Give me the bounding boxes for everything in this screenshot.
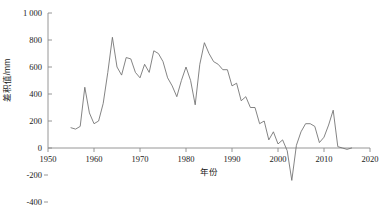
x-tick-label: 1960 bbox=[86, 154, 103, 164]
y-tick-label: 1 000 bbox=[23, 8, 42, 18]
x-axis: 19501960197019801990200020102020 bbox=[40, 148, 379, 164]
x-axis-title: 年份 bbox=[200, 167, 218, 177]
y-tick-label: -400 bbox=[26, 197, 42, 207]
data-series-group bbox=[71, 37, 352, 180]
y-tick-label: 600 bbox=[29, 62, 42, 72]
x-tick-label: 1950 bbox=[40, 154, 57, 164]
y-tick-label: 200 bbox=[29, 116, 42, 126]
x-tick-label: 1970 bbox=[132, 154, 149, 164]
cumulative-anomaly-line-chart: -400-20002004006008001 000 1950196019701… bbox=[0, 0, 385, 212]
y-axis-title: 差积值/mm bbox=[2, 59, 12, 103]
y-tick-label: 800 bbox=[29, 35, 42, 45]
y-axis: -400-20002004006008001 000 bbox=[23, 8, 52, 207]
y-tick-label: 0 bbox=[38, 143, 42, 153]
x-axis-tick-labels: 19501960197019801990200020102020 bbox=[40, 154, 379, 164]
data-line-series bbox=[71, 37, 352, 180]
x-tick-label: 1990 bbox=[224, 154, 241, 164]
y-tick-label: 400 bbox=[29, 89, 42, 99]
chart-container: -400-20002004006008001 000 1950196019701… bbox=[0, 0, 385, 212]
x-tick-label: 2020 bbox=[362, 154, 379, 164]
x-tick-label: 2010 bbox=[316, 154, 333, 164]
y-axis-tick-labels: -400-20002004006008001 000 bbox=[23, 8, 42, 207]
x-axis-ticks bbox=[48, 148, 370, 152]
x-tick-label: 2000 bbox=[270, 154, 287, 164]
x-tick-label: 1980 bbox=[178, 154, 195, 164]
y-tick-label: -200 bbox=[26, 170, 42, 180]
